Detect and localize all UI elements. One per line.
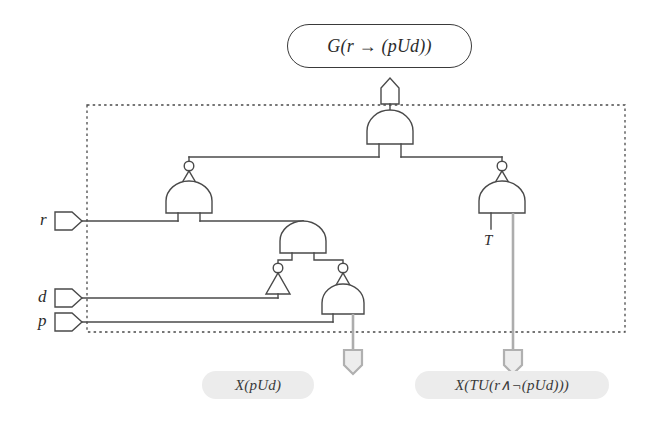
constant-true-label: T xyxy=(484,232,492,249)
gate-and-right[interactable] xyxy=(479,181,525,213)
bubble-not-left[interactable] xyxy=(184,161,194,171)
output-formula-left: X(pUd) xyxy=(202,371,314,399)
bubble-not-right[interactable] xyxy=(497,161,507,171)
gate-not-mid-left[interactable] xyxy=(266,273,290,294)
input-pin-p[interactable] xyxy=(55,313,82,331)
wire-and-mid-in-right xyxy=(314,253,343,264)
gate-and-lower[interactable] xyxy=(322,284,364,314)
gate-and-left[interactable] xyxy=(166,181,212,213)
output-pin-left[interactable] xyxy=(344,350,362,374)
top-formula-label: G(r → (pUd)) xyxy=(287,24,472,68)
input-label-d: d xyxy=(38,287,47,307)
bubble-not-mid-left[interactable] xyxy=(273,263,283,273)
output-formula-right: X(TU(r∧¬(pUd))) xyxy=(415,371,609,399)
diagram-canvas: G(r → (pUd)) r d p T X(pUd) X(TU(r∧¬(pUd… xyxy=(0,0,657,423)
input-label-p: p xyxy=(38,311,47,331)
top-output-pin[interactable] xyxy=(381,78,399,104)
gate-and-top[interactable] xyxy=(367,110,413,144)
input-label-r: r xyxy=(40,210,47,230)
input-pin-d[interactable] xyxy=(55,289,82,307)
gate-and-mid[interactable] xyxy=(280,221,326,253)
wire-and-mid-in-left xyxy=(278,253,292,264)
input-pin-r[interactable] xyxy=(55,212,82,230)
bubble-not-mid-right[interactable] xyxy=(338,263,348,273)
